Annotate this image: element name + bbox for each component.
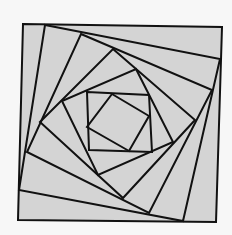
spiral-squares-diagram — [0, 0, 232, 235]
